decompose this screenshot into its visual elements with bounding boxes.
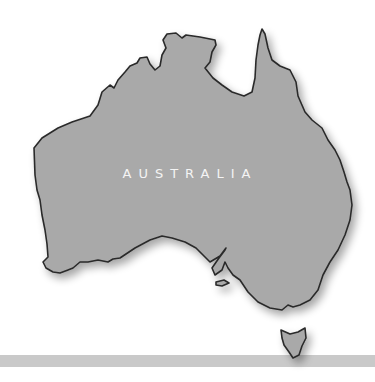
kangaroo-island — [216, 280, 229, 286]
australia-map — [0, 0, 375, 382]
country-label: AUSTRALIA — [100, 166, 280, 181]
tasmania-outline — [281, 328, 306, 358]
